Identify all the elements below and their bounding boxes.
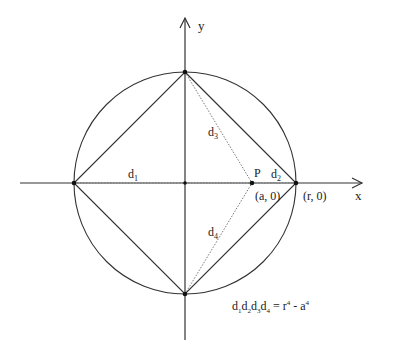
point-p xyxy=(250,181,255,186)
x-axis-label: x xyxy=(355,188,362,203)
bottom-vertex xyxy=(183,292,188,297)
origin-point xyxy=(183,181,187,185)
point-p-label: P xyxy=(254,166,261,180)
point-p-coord: (a, 0) xyxy=(255,189,280,203)
d3-label: d3 xyxy=(208,125,218,141)
circle-diagram: y x P (a, 0) (r, 0) d1 d2 d3 d4 d1d2d3d4… xyxy=(0,0,409,355)
right-vertex xyxy=(294,181,299,186)
point-r-coord: (r, 0) xyxy=(303,189,327,203)
top-vertex xyxy=(183,70,188,75)
d2-label: d2 xyxy=(271,167,281,183)
left-vertex xyxy=(72,181,77,186)
d4-label: d4 xyxy=(208,225,218,241)
d4-line xyxy=(185,183,252,294)
y-axis-label: y xyxy=(198,18,205,33)
d3-line xyxy=(185,72,252,183)
d1-label: d1 xyxy=(128,167,138,183)
equation: d1d2d3d4 = r4 - a4 xyxy=(232,299,310,315)
